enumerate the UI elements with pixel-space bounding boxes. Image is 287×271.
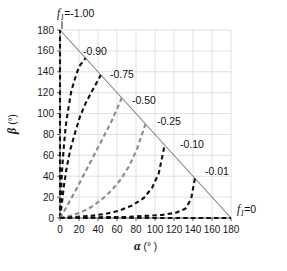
y-tick-label: 80 [43, 129, 55, 140]
x-tick-label: 40 [92, 224, 104, 235]
annotation-f1-bottom-right: f1=0 [237, 203, 256, 218]
x-tick-label: 100 [147, 224, 164, 235]
annotation-label-0-01: -0.01 [205, 165, 229, 177]
chart-figure: 0204060801001201401601800204060801001201… [0, 0, 287, 271]
y-tick-label: 0 [48, 213, 54, 224]
x-tick-label: 60 [111, 224, 123, 235]
y-tick-label: 120 [37, 87, 54, 98]
y-tick-label: 140 [37, 66, 54, 77]
x-tick-label: 180 [223, 224, 240, 235]
y-axis-title: β(°) [5, 114, 19, 135]
contour-plot: 0204060801001201401601800204060801001201… [0, 0, 287, 271]
y-tick-label: 40 [43, 171, 55, 182]
curve-f1--0-10 [60, 146, 165, 218]
curve-f1--0-50 [60, 98, 122, 218]
x-tick-label: 20 [73, 224, 85, 235]
x-tick-label: 120 [166, 224, 183, 235]
y-tick-label: 100 [37, 108, 54, 119]
curve-f1--0-75 [60, 75, 101, 218]
annotations: f1=-1.00-0.90-0.75-0.50-0.25-0.10-0.01f1… [57, 7, 256, 218]
annotation-label-0-75: -0.75 [110, 68, 134, 80]
annotation-label-0-10: -0.10 [180, 138, 204, 150]
x-tick-label: 0 [57, 224, 63, 235]
x-axis-title: α(° ) [134, 239, 157, 253]
annotation-f1-top-left: f1=-1.00 [57, 7, 94, 22]
x-tick-label: 80 [130, 224, 142, 235]
y-tick-label: 60 [43, 150, 55, 161]
x-tick-label: 160 [204, 224, 221, 235]
annotation-label-0-50: -0.50 [132, 94, 156, 106]
y-tick-label: 20 [43, 192, 55, 203]
y-tick-label: 180 [37, 25, 54, 36]
annotation-label-0-90: -0.90 [83, 45, 107, 57]
curve-f1--0-01 [60, 178, 195, 218]
annotation-label-0-25: -0.25 [157, 115, 181, 127]
y-tick-label: 160 [37, 45, 54, 56]
x-tick-label: 140 [185, 224, 202, 235]
